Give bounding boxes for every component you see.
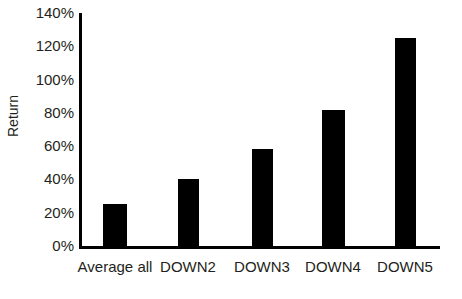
bar — [395, 38, 416, 246]
y-axis-tick-label: 80% — [2, 105, 74, 120]
y-axis-tick-label: 0% — [2, 238, 74, 253]
x-axis-tick-label: DOWN5 — [345, 258, 462, 276]
y-axis-tick-labels: 0%20%40%60%80%100%120%140% — [0, 0, 74, 299]
x-axis-tick-labels: Average allDOWN2DOWN3DOWN4DOWN5 — [0, 258, 462, 288]
plot-area — [79, 13, 440, 249]
y-axis-tick-label: 60% — [2, 138, 74, 153]
bar-chart: Return 0%20%40%60%80%100%120%140% Averag… — [0, 0, 462, 299]
bar-series — [79, 13, 440, 249]
y-axis-tick-label: 140% — [2, 5, 74, 20]
bar — [252, 149, 273, 246]
bar — [322, 110, 345, 246]
bar — [103, 204, 127, 246]
y-axis-tick-label: 40% — [2, 171, 74, 186]
y-axis-tick-label: 100% — [2, 72, 74, 87]
y-axis-tick-label: 20% — [2, 205, 74, 220]
y-axis-tick-label: 120% — [2, 38, 74, 53]
bar — [178, 179, 199, 246]
